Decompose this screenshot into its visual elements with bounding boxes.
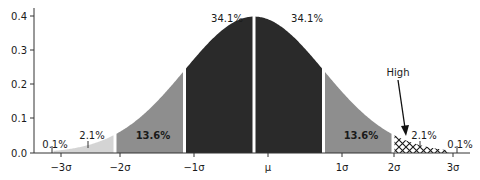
distribution-regions (54, 17, 449, 153)
normal-distribution-chart: 0.4 0.3 0.2 0.1 0.0 −3σ −2σ −1σ μ 1σ 2σ … (0, 0, 480, 180)
label-right-0-1pct: 0.1% (447, 139, 472, 150)
label-right-2-1pct: 2.1% (411, 130, 436, 141)
y-tick-label: 0.4 (11, 11, 27, 22)
x-tick-label: −3σ (50, 162, 72, 173)
x-tick-label: 2σ (388, 162, 401, 173)
y-tick-label: 0.0 (11, 148, 27, 159)
label-left-13-6pct: 13.6% (136, 130, 171, 141)
label-right-13-6pct: 13.6% (344, 130, 379, 141)
label-left-2-1pct: 2.1% (79, 130, 104, 141)
annotation-high: High (387, 67, 410, 78)
x-tick-label: 3σ (447, 162, 460, 173)
y-tick-label: 0.2 (11, 79, 27, 90)
region-center-right-34-1pct (256, 17, 323, 153)
x-tick-label: 1σ (336, 162, 349, 173)
region-center-left-34-1pct (186, 17, 253, 153)
x-ticks (61, 153, 453, 157)
y-tick-labels: 0.4 0.3 0.2 0.1 0.0 (11, 11, 27, 159)
label-center-right-34-1pct: 34.1% (291, 13, 323, 24)
y-ticks (30, 16, 34, 118)
y-tick-label: 0.3 (11, 45, 27, 56)
label-left-0-1pct: 0.1% (42, 139, 67, 150)
x-tick-label: μ (265, 162, 272, 173)
x-tick-label: −2σ (109, 162, 131, 173)
x-tick-labels: −3σ −2σ −1σ μ 1σ 2σ 3σ (50, 162, 460, 173)
y-tick-label: 0.1 (11, 113, 27, 124)
label-center-left-34-1pct: 34.1% (211, 13, 243, 24)
annotation-arrow-icon (398, 80, 409, 136)
x-tick-label: −1σ (183, 162, 205, 173)
